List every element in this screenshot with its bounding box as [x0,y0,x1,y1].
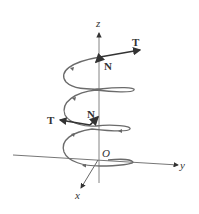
x-axis-label: x [74,189,80,201]
tangent-label-middle: T [47,114,55,126]
tangent-vector-top [100,50,140,57]
tangent-vector-middle [60,120,90,125]
tangent-label-top: T [132,36,140,48]
curve-arrow-icon [70,67,74,71]
normal-label-top: N [104,60,112,72]
z-axis-label: z [95,17,101,29]
y-axis-label: y [179,159,185,171]
helix-diagram: z y x O T N T N [0,0,199,214]
curve-arrow-icon [118,129,122,133]
normal-label-middle: N [87,108,95,120]
origin-label: O [102,147,110,159]
